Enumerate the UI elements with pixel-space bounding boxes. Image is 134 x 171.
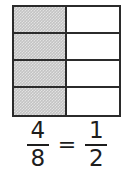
- right-fraction-numerator: 1: [89, 119, 104, 142]
- grid-cell-r4c1: [14, 88, 67, 115]
- grid-cell-r2c2: [67, 34, 120, 61]
- equation: 4 8 = 1 2: [0, 118, 134, 171]
- right-fraction: 1 2: [85, 119, 107, 171]
- left-fraction: 4 8: [27, 119, 49, 171]
- grid-cell-r2c1: [14, 34, 67, 61]
- grid-cell-r3c2: [67, 61, 120, 88]
- grid-cell-r1c2: [67, 7, 120, 34]
- area-model-grid: [12, 5, 121, 117]
- grid-cell-r1c1: [14, 7, 67, 34]
- grid-cell-r4c2: [67, 88, 120, 115]
- equals-sign: =: [58, 134, 76, 156]
- fraction-figure: 4 8 = 1 2: [0, 0, 134, 171]
- grid-cell-r3c1: [14, 61, 67, 88]
- left-fraction-numerator: 4: [30, 119, 45, 142]
- right-fraction-denominator: 2: [89, 147, 104, 170]
- left-fraction-denominator: 8: [30, 147, 45, 170]
